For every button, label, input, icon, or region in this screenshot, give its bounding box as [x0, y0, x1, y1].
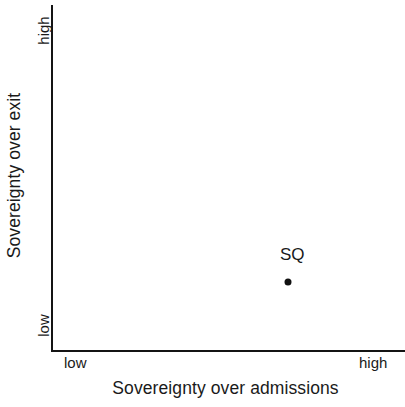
y-axis-title-text: Sovereignty over exit	[5, 93, 26, 259]
y-axis-tick-low-text: low	[34, 314, 51, 337]
data-point	[285, 278, 292, 285]
x-axis-title: Sovereignty over admissions	[0, 378, 405, 399]
data-point-label: SQ	[280, 245, 305, 265]
x-axis-tick-high: high	[359, 354, 387, 371]
y-axis-title: Sovereignty over exit	[0, 0, 30, 351]
chart-figure: Sovereignty over exit high low low high …	[0, 0, 405, 407]
y-axis-tick-high-text: high	[34, 16, 51, 44]
x-axis-tick-low: low	[64, 354, 87, 371]
plot-area: SQ	[51, 5, 405, 351]
